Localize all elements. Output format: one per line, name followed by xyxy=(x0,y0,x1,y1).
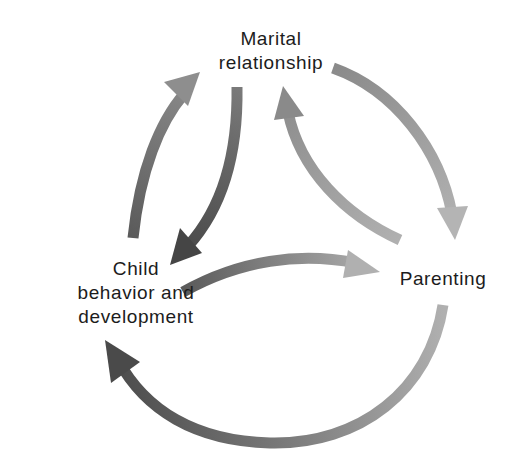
family-systems-cycle-diagram: Marital relationship Child behavior and … xyxy=(0,0,506,476)
arrow-marital-to-child xyxy=(170,87,237,265)
node-label-line: Parenting xyxy=(388,267,498,291)
node-label-line: relationship xyxy=(196,51,346,75)
node-label-line: Child xyxy=(44,257,228,281)
arrow-child-to-marital xyxy=(133,72,200,238)
arrow-parenting-to-marital xyxy=(274,86,400,240)
node-child-behavior-development: Child behavior and development xyxy=(44,257,228,329)
node-marital-relationship: Marital relationship xyxy=(196,27,346,75)
node-label-line: behavior and xyxy=(44,281,228,305)
node-label-line: Marital xyxy=(196,27,346,51)
node-parenting: Parenting xyxy=(388,267,498,291)
node-label-line: development xyxy=(44,305,228,329)
